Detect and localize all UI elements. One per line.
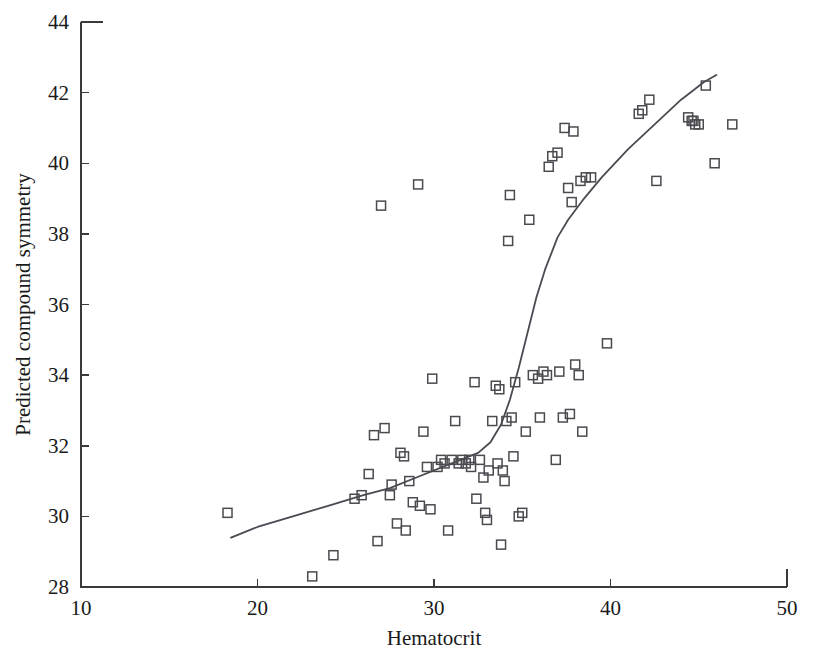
data-point xyxy=(444,526,453,535)
x-tick-label-10: 10 xyxy=(71,596,92,620)
figure-container: 1020304050283032343638404244HematocritPr… xyxy=(0,0,813,662)
data-point xyxy=(500,477,509,486)
data-point xyxy=(223,508,232,517)
data-point xyxy=(553,148,562,157)
data-point xyxy=(491,381,500,390)
data-point xyxy=(451,417,460,426)
data-point xyxy=(497,540,506,549)
data-point xyxy=(509,452,518,461)
data-point xyxy=(634,109,643,118)
data-point xyxy=(419,427,428,436)
data-point xyxy=(710,159,719,168)
data-point xyxy=(728,120,737,129)
data-point xyxy=(329,551,338,560)
data-point xyxy=(528,371,537,380)
data-point xyxy=(551,455,560,464)
data-point xyxy=(602,339,611,348)
data-point xyxy=(426,505,435,514)
data-point xyxy=(578,427,587,436)
axis-lines xyxy=(81,22,787,587)
data-point xyxy=(364,470,373,479)
data-point xyxy=(507,413,516,422)
data-point xyxy=(475,455,484,464)
x-axis-title: Hematocrit xyxy=(387,626,482,650)
data-point xyxy=(652,176,661,185)
x-tick-label-50: 50 xyxy=(777,596,798,620)
data-point xyxy=(401,526,410,535)
data-point xyxy=(525,215,534,224)
data-point xyxy=(555,367,564,376)
data-point xyxy=(638,106,647,115)
data-point xyxy=(518,508,527,517)
data-point xyxy=(400,452,409,461)
data-point xyxy=(542,371,551,380)
data-point xyxy=(504,236,513,245)
data-point xyxy=(514,512,523,521)
data-point xyxy=(564,183,573,192)
y-tick-label-32: 32 xyxy=(48,434,69,458)
y-tick-label-40: 40 xyxy=(48,151,69,175)
data-point xyxy=(385,491,394,500)
data-point xyxy=(428,374,437,383)
data-point xyxy=(488,417,497,426)
y-tick-label-42: 42 xyxy=(48,81,69,105)
y-tick-label-30: 30 xyxy=(48,504,69,528)
data-point xyxy=(548,152,557,161)
data-point xyxy=(581,173,590,182)
data-point xyxy=(567,198,576,207)
data-points-group xyxy=(223,81,737,581)
y-tick-label-44: 44 xyxy=(48,10,70,34)
data-point xyxy=(574,371,583,380)
data-point xyxy=(645,95,654,104)
data-point xyxy=(569,127,578,136)
fit-curve-group xyxy=(231,75,716,538)
data-point xyxy=(571,360,580,369)
data-point xyxy=(521,427,530,436)
scatter-plot: 1020304050283032343638404244HematocritPr… xyxy=(0,0,813,662)
data-point xyxy=(392,519,401,528)
data-point xyxy=(396,448,405,457)
data-point xyxy=(472,494,481,503)
x-tick-label-40: 40 xyxy=(600,596,621,620)
axes-group xyxy=(81,22,787,587)
y-axis-title: Predicted compound symmetry xyxy=(11,173,35,436)
x-tick-label-20: 20 xyxy=(247,596,268,620)
data-point xyxy=(495,385,504,394)
data-point xyxy=(535,413,544,422)
axis-labels-group: 1020304050283032343638404244HematocritPr… xyxy=(11,10,798,650)
y-tick-label-28: 28 xyxy=(48,575,69,599)
data-point xyxy=(380,424,389,433)
data-point xyxy=(422,462,431,471)
x-tick-label-30: 30 xyxy=(424,596,445,620)
data-point xyxy=(369,431,378,440)
data-point xyxy=(560,123,569,132)
y-tick-label-36: 36 xyxy=(48,293,69,317)
data-point xyxy=(544,162,553,171)
data-point xyxy=(505,191,514,200)
data-point xyxy=(308,572,317,581)
data-point xyxy=(414,180,423,189)
data-point xyxy=(470,378,479,387)
data-point xyxy=(587,173,596,182)
y-tick-label-38: 38 xyxy=(48,222,69,246)
fit-curve-path xyxy=(231,75,716,538)
y-tick-label-34: 34 xyxy=(48,363,70,387)
data-point xyxy=(377,201,386,210)
data-point xyxy=(373,537,382,546)
data-point xyxy=(576,176,585,185)
